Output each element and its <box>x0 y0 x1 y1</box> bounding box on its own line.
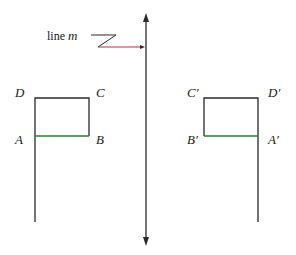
point-label-d-prime: D′ <box>267 85 280 100</box>
reflected-flag: C′ D′ B′ A′ <box>187 85 280 222</box>
point-label-b: B <box>96 132 104 147</box>
zigzag-pointer <box>91 35 116 47</box>
line-m <box>143 13 149 246</box>
original-flag: D C A B <box>14 85 105 222</box>
svg-text:line m: line m <box>47 28 77 43</box>
line-label-text: line <box>47 29 68 43</box>
point-label-b-prime: B′ <box>187 132 198 147</box>
point-label-d: D <box>14 85 25 100</box>
line-label-var: m <box>68 28 77 43</box>
line-m-label: line m <box>47 28 145 49</box>
point-label-a-prime: A′ <box>267 132 279 147</box>
arrow-up-icon <box>143 13 149 22</box>
reflection-diagram: line m D C A B C′ D′ B′ A′ <box>0 0 296 255</box>
arrow-down-icon <box>143 237 149 246</box>
pointer-arrowhead-icon <box>140 45 145 49</box>
point-label-a: A <box>14 132 23 147</box>
point-label-c-prime: C′ <box>187 85 199 100</box>
point-label-c: C <box>96 85 105 100</box>
